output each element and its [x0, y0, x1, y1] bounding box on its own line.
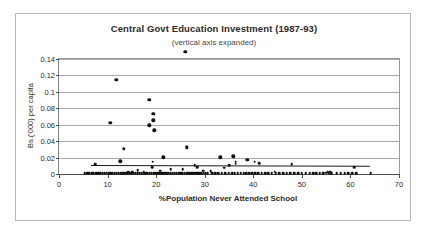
chart-subtitle: (vertical axis expanded)	[16, 38, 412, 47]
y-tick-mark	[56, 59, 59, 60]
y-tick-mark	[56, 75, 59, 76]
x-tick-label: 70	[395, 180, 403, 189]
data-point	[347, 172, 350, 175]
data-point	[286, 172, 289, 175]
data-point	[282, 172, 285, 175]
data-point	[257, 172, 260, 175]
gridline	[59, 141, 399, 142]
y-tick-label: 0.02	[40, 153, 55, 162]
data-point	[301, 172, 304, 175]
data-point	[264, 172, 267, 175]
x-tick-label: 20	[152, 180, 160, 189]
y-tick-label: 0.08	[40, 104, 55, 113]
gridline	[59, 59, 399, 60]
data-point	[115, 78, 118, 81]
y-tick-mark	[56, 125, 59, 126]
data-point	[278, 172, 281, 175]
data-point	[152, 118, 155, 121]
data-point	[312, 172, 315, 175]
y-axis-title: Bs.('000) per capita	[25, 58, 36, 173]
x-tick-mark	[399, 174, 400, 178]
data-point	[260, 172, 263, 175]
data-point	[152, 112, 155, 115]
gridline	[59, 75, 399, 76]
x-tick-label: 60	[346, 180, 354, 189]
x-tick-label: 30	[201, 180, 209, 189]
data-point	[343, 172, 346, 175]
x-tick-label: 10	[103, 180, 111, 189]
y-tick-mark	[56, 108, 59, 109]
data-point	[351, 172, 354, 175]
data-point	[184, 50, 187, 53]
data-point	[293, 172, 296, 175]
data-point	[370, 172, 373, 175]
chart-container: Central Govt Education Investment (1987-…	[15, 13, 411, 221]
data-point	[253, 160, 256, 163]
data-point	[339, 172, 342, 175]
plot-area: 00.020.040.060.080.10.120.14 01020304050…	[58, 58, 400, 174]
data-point	[274, 172, 277, 175]
data-point	[227, 172, 230, 175]
data-point	[336, 172, 339, 175]
data-point	[220, 172, 223, 175]
data-point	[169, 168, 172, 171]
data-point	[148, 98, 151, 101]
data-point	[330, 172, 333, 175]
chart-title: Central Govt Education Investment (1987-…	[16, 23, 412, 34]
y-tick-label: 0.04	[40, 137, 55, 146]
data-point	[297, 172, 300, 175]
y-tick-label: 0.12	[40, 71, 55, 80]
data-point	[246, 158, 249, 161]
x-axis-title: %Population Never Attended School	[58, 194, 398, 203]
data-point	[118, 160, 121, 163]
y-tick-mark	[56, 92, 59, 93]
data-point	[355, 172, 358, 175]
gridline	[59, 108, 399, 109]
trend-line	[91, 165, 370, 167]
data-point	[304, 172, 307, 175]
data-point	[270, 172, 273, 175]
data-point	[223, 167, 226, 170]
x-tick-label: 50	[298, 180, 306, 189]
y-tick-label: 0.06	[40, 120, 55, 129]
data-point	[224, 172, 227, 175]
data-point	[151, 160, 154, 163]
data-point	[308, 172, 311, 175]
gridline	[59, 92, 399, 93]
data-point	[319, 172, 322, 175]
data-point	[289, 172, 292, 175]
gridline	[59, 158, 399, 159]
y-tick-label: 0	[51, 170, 55, 179]
data-point	[258, 162, 261, 165]
y-tick-label: 0.1	[45, 87, 55, 96]
data-point	[148, 123, 151, 126]
data-point	[185, 146, 188, 149]
data-point	[152, 129, 155, 132]
data-point	[217, 172, 220, 175]
data-point	[206, 172, 209, 175]
x-tick-label: 40	[249, 180, 257, 189]
gridline	[59, 125, 399, 126]
data-point	[182, 168, 185, 171]
data-point	[122, 147, 125, 150]
x-tick-label: 0	[57, 180, 61, 189]
data-point	[315, 172, 318, 175]
y-tick-mark	[56, 141, 59, 142]
data-point	[267, 172, 270, 175]
y-tick-mark	[56, 158, 59, 159]
data-point	[214, 172, 217, 175]
y-tick-label: 0.14	[40, 55, 55, 64]
